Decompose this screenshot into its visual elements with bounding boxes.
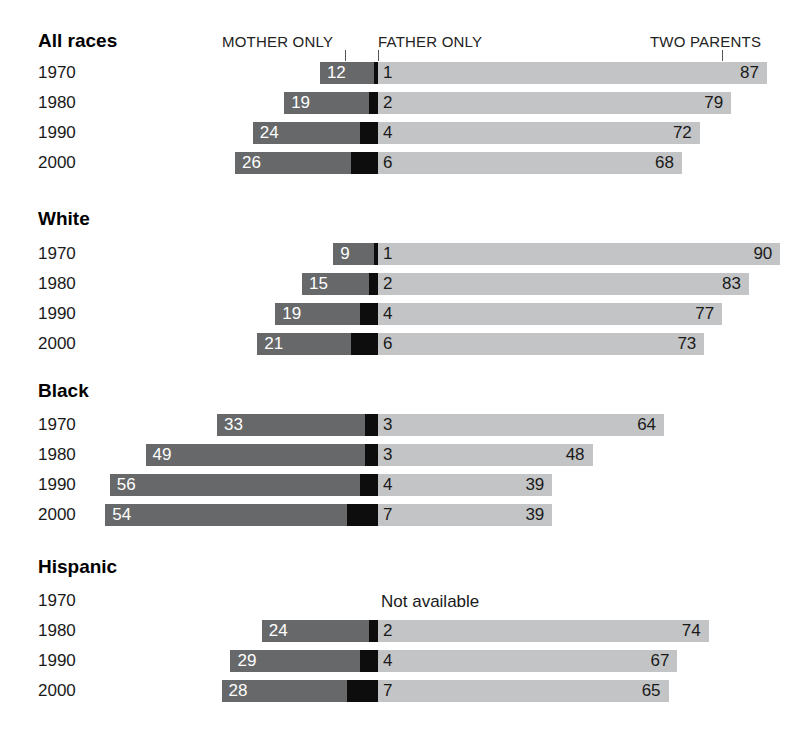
bar-segment-father-only [360,474,378,496]
bar-value-mother-only: 19 [291,92,310,114]
bar-segment-two-parents [378,273,749,295]
bar-row: 33364 [0,414,809,436]
bar-segment-father-only [360,650,378,672]
bar-segment-two-parents [378,680,669,702]
bar-value-mother-only: 21 [264,333,283,355]
bar-row: 24274 [0,620,809,642]
bar-value-mother-only: 29 [237,650,256,672]
bar-value-mother-only: 12 [327,62,346,84]
bar-row: 54739 [0,504,809,526]
bar-segment-two-parents [378,243,780,265]
bar-value-mother-only: 26 [242,152,261,174]
bar-segment-father-only [360,303,378,325]
bar-value-father-only: 4 [383,122,392,144]
bar-value-mother-only: 24 [269,620,288,642]
bar-value-father-only: 4 [383,650,392,672]
bar-segment-two-parents [378,303,722,325]
legend-tick-two-parents [722,50,723,61]
bar-value-father-only: 3 [383,414,392,436]
bar-value-father-only: 3 [383,444,392,466]
bar-row: 9190 [0,243,809,265]
bar-value-two-parents: 39 [518,474,544,496]
bar-segment-father-only [369,92,378,114]
bar-segment-two-parents [378,650,677,672]
legend-tick-father-only [378,50,379,61]
bar-value-mother-only: 54 [112,504,131,526]
bar-segment-father-only [369,620,378,642]
bar-value-two-parents: 68 [648,152,674,174]
bar-value-two-parents: 73 [670,333,696,355]
group-title: Hispanic [38,556,117,578]
bar-value-two-parents: 79 [697,92,723,114]
bar-value-father-only: 2 [383,620,392,642]
bar-segment-mother-only [146,444,365,466]
bar-value-two-parents: 64 [630,414,656,436]
legend-label-two-parents: TWO PARENTS [650,33,761,50]
bar-segment-two-parents [378,620,709,642]
bar-segment-two-parents [378,62,767,84]
legend-label-mother-only: MOTHER ONLY [222,33,333,50]
bar-segment-father-only [351,333,378,355]
bar-value-two-parents: 77 [688,303,714,325]
bar-row: 26668 [0,152,809,174]
bar-segment-father-only [360,122,378,144]
bar-segment-mother-only [110,474,360,496]
bar-value-father-only: 1 [383,243,392,265]
bar-segment-father-only [369,273,378,295]
bar-segment-father-only [365,444,378,466]
bar-row: 49348 [0,444,809,466]
bar-value-mother-only: 49 [153,444,172,466]
bar-value-mother-only: 15 [309,273,328,295]
group-title: All races [38,30,117,52]
bar-row: 29467 [0,650,809,672]
group-title: Black [38,380,89,402]
bar-value-two-parents: 65 [635,680,661,702]
bar-row: 21673 [0,333,809,355]
bar-value-father-only: 4 [383,303,392,325]
bar-value-father-only: 6 [383,333,392,355]
bar-value-two-parents: 87 [733,62,759,84]
bar-value-two-parents: 72 [666,122,692,144]
legend-label-father-only: FATHER ONLY [378,33,482,50]
bar-value-two-parents: 39 [518,504,544,526]
bar-segment-two-parents [378,92,731,114]
bar-value-father-only: 6 [383,152,392,174]
bar-segment-father-only [365,414,378,436]
bar-value-mother-only: 28 [229,680,248,702]
bar-segment-father-only [347,504,378,526]
bar-segment-two-parents [378,122,700,144]
not-available-text: Not available [381,591,479,613]
bar-row: 15283 [0,273,809,295]
bar-value-mother-only: 9 [340,243,349,265]
bar-value-two-parents: 48 [559,444,585,466]
bar-value-mother-only: 24 [260,122,279,144]
bar-value-two-parents: 74 [675,620,701,642]
bar-segment-father-only [347,680,378,702]
bar-value-two-parents: 83 [715,273,741,295]
bar-row: 24472 [0,122,809,144]
legend-tick-mother-only [345,50,346,61]
bar-value-father-only: 4 [383,474,392,496]
bar-row: 19279 [0,92,809,114]
bar-segment-two-parents [378,414,664,436]
bar-value-father-only: 2 [383,273,392,295]
bar-value-mother-only: 33 [224,414,243,436]
bar-value-father-only: 7 [383,680,392,702]
bar-row: 19477 [0,303,809,325]
bar-row: 12187 [0,62,809,84]
bar-segment-father-only [351,152,378,174]
bar-value-two-parents: 67 [643,650,669,672]
bar-value-father-only: 2 [383,92,392,114]
bar-segment-two-parents [378,152,682,174]
year-label: 1970 [38,591,76,611]
bar-value-mother-only: 56 [117,474,136,496]
chart-canvas: MOTHER ONLY FATHER ONLY TWO PARENTS All … [0,0,809,746]
bar-segment-mother-only [105,504,346,526]
bar-value-father-only: 7 [383,504,392,526]
bar-row: 28765 [0,680,809,702]
bar-value-two-parents: 90 [746,243,772,265]
bar-segment-two-parents [378,333,704,355]
bar-value-father-only: 1 [383,62,392,84]
bar-row: 56439 [0,474,809,496]
group-title: White [38,208,90,230]
